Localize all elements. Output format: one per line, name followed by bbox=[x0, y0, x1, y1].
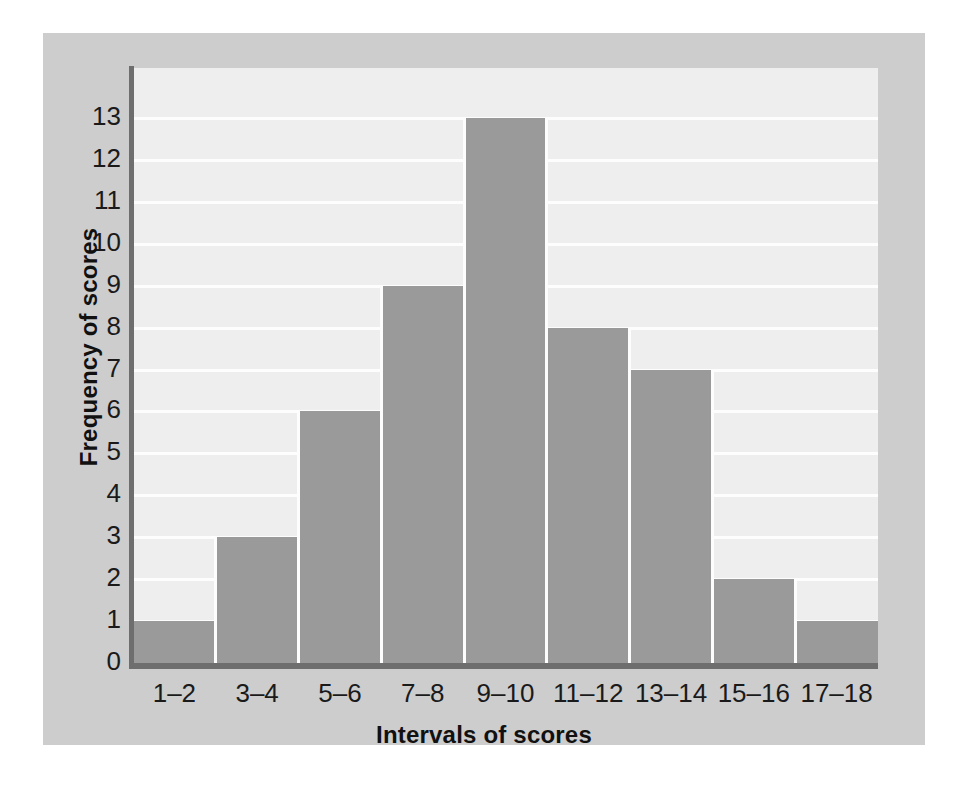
bar bbox=[133, 621, 216, 663]
x-axis-tick-label: 15–16 bbox=[712, 678, 795, 709]
y-axis-tick-label: 11 bbox=[83, 185, 121, 216]
x-axis-tick-label: 13–14 bbox=[630, 678, 713, 709]
x-axis-line bbox=[129, 663, 878, 669]
bar bbox=[712, 579, 795, 663]
x-axis-tick-label: 3–4 bbox=[216, 678, 299, 709]
bar-separator bbox=[794, 579, 797, 663]
bar bbox=[216, 537, 299, 663]
chart-panel: 012345678910111213 1–23–45–67–89–1011–12… bbox=[43, 33, 925, 745]
bar bbox=[795, 621, 878, 663]
y-axis-tick-label: 13 bbox=[83, 101, 121, 132]
y-axis-tick-label: 0 bbox=[83, 646, 121, 677]
x-axis-tick-label: 1–2 bbox=[133, 678, 216, 709]
bar-separator bbox=[380, 286, 383, 663]
y-axis-line bbox=[129, 66, 134, 666]
bar-separator bbox=[297, 411, 300, 663]
x-axis-tick-label: 7–8 bbox=[381, 678, 464, 709]
y-axis-tick-label: 3 bbox=[83, 520, 121, 551]
bar bbox=[299, 411, 382, 663]
x-axis-tick-label: 9–10 bbox=[464, 678, 547, 709]
plot-area bbox=[133, 68, 878, 663]
bar bbox=[464, 118, 547, 663]
x-axis-title: Intervals of scores bbox=[43, 721, 925, 749]
y-axis-tick-label: 1 bbox=[83, 604, 121, 635]
y-axis-tick-label: 4 bbox=[83, 478, 121, 509]
x-axis-tick-label: 5–6 bbox=[299, 678, 382, 709]
bar bbox=[381, 286, 464, 663]
y-axis-tick-label: 2 bbox=[83, 562, 121, 593]
x-axis-tick-label: 17–18 bbox=[795, 678, 878, 709]
histogram-figure: 012345678910111213 1–23–45–67–89–1011–12… bbox=[0, 0, 953, 790]
x-axis-tick-label: 11–12 bbox=[547, 678, 630, 709]
bar-separator bbox=[711, 370, 714, 663]
bar-series bbox=[133, 68, 878, 663]
bar-separator bbox=[628, 328, 631, 663]
bar bbox=[547, 328, 630, 663]
bar bbox=[630, 370, 713, 663]
bar-separator bbox=[463, 118, 466, 663]
y-axis-tick-label: 12 bbox=[83, 143, 121, 174]
bar-separator bbox=[214, 537, 217, 663]
y-axis-title: Frequency of scores bbox=[75, 217, 103, 477]
bar-separator bbox=[545, 118, 548, 663]
